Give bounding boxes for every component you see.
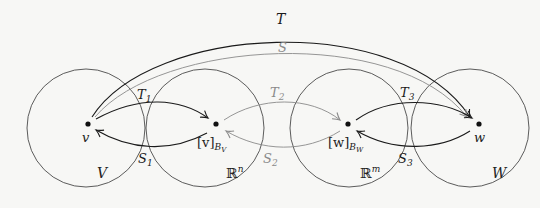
- map-T3-arrow: [356, 103, 472, 121]
- point-vB-dot: [213, 121, 218, 126]
- map-S2-label: S2: [263, 151, 278, 168]
- space-Rn-circle: [146, 69, 264, 187]
- point-v-label: v: [82, 130, 90, 145]
- point-vB-label: [v]BV: [197, 135, 227, 154]
- space-W-circle: [411, 69, 529, 187]
- map-T-label: T: [276, 11, 287, 27]
- map-T1-arrow: [96, 102, 208, 119]
- map-T2-label: T2: [270, 85, 285, 102]
- map-S1-label: S1: [138, 151, 153, 168]
- point-w-dot: [476, 121, 481, 126]
- map-S-arrow: [95, 54, 467, 117]
- space-Rm-label: ℝm: [360, 164, 380, 181]
- map-S2-arrow: [226, 131, 340, 147]
- map-S3-label: S3: [398, 151, 413, 168]
- point-wB-label: [w]BW: [328, 135, 364, 154]
- map-T3-label: T3: [400, 85, 415, 102]
- point-wB-dot: [345, 121, 350, 126]
- map-S1-arrow: [96, 130, 207, 147]
- space-Rn-label: ℝn: [226, 164, 244, 181]
- point-v-dot: [85, 121, 90, 126]
- space-V-circle: [27, 69, 145, 187]
- linear-maps-diagram: v [v]BV [w]BW w V ℝn ℝm W T S T1 S1 T2 S…: [0, 0, 540, 208]
- map-T1-label: T1: [137, 87, 151, 104]
- space-Rm-circle: [290, 69, 408, 187]
- space-W-label: W: [492, 165, 508, 181]
- point-w-label: w: [474, 130, 485, 145]
- space-V-label: V: [97, 165, 109, 181]
- map-S-label: S: [278, 40, 287, 55]
- map-T2-arrow: [224, 102, 340, 120]
